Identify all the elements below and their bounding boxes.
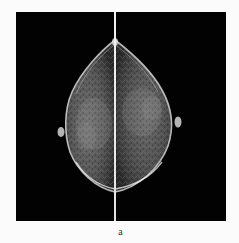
divider-line bbox=[114, 12, 116, 221]
left-nipple bbox=[58, 127, 65, 137]
figure-caption: a bbox=[0, 226, 239, 238]
left-breast-view bbox=[58, 40, 116, 192]
right-nipple bbox=[175, 117, 182, 128]
mammogram-panel bbox=[16, 12, 226, 221]
right-breast-view bbox=[115, 40, 182, 192]
figure: a bbox=[0, 0, 239, 243]
mammogram-image bbox=[16, 12, 226, 221]
